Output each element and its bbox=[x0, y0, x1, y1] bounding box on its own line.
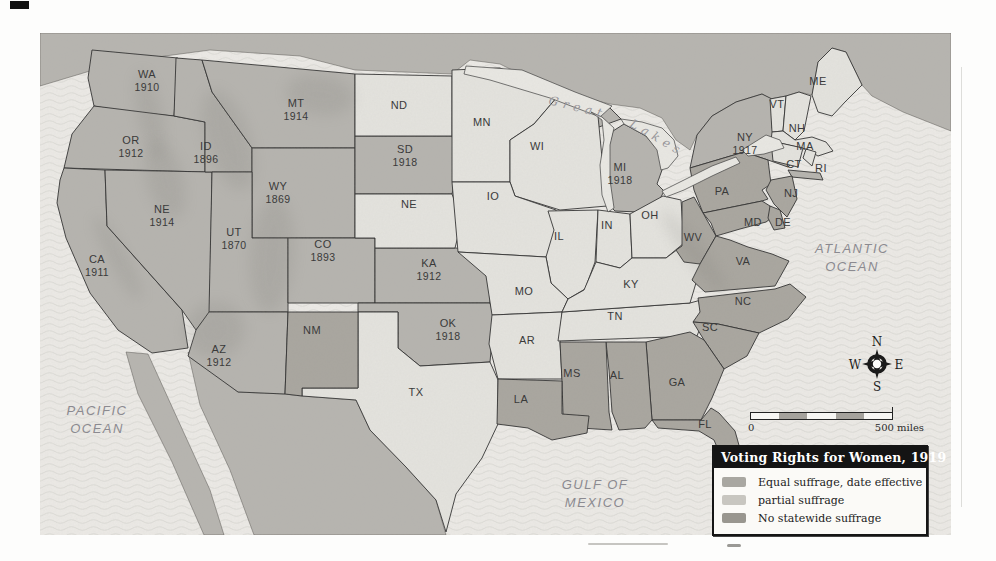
legend-item-none: No statewide suffrage bbox=[714, 509, 926, 527]
state-label-IL: IL bbox=[554, 230, 564, 242]
scale-end-label: 500 miles bbox=[875, 422, 924, 433]
scale-segment bbox=[836, 413, 864, 419]
state-date-KA: 1912 bbox=[417, 270, 442, 282]
state-label-MD: MD bbox=[744, 216, 762, 228]
legend-item-label: No statewide suffrage bbox=[758, 512, 881, 525]
state-label-ID: ID bbox=[200, 140, 212, 152]
state-label-NH: NH bbox=[789, 122, 806, 134]
compass-s-label: S bbox=[873, 380, 881, 394]
state-label-SC: SC bbox=[702, 321, 718, 333]
scale-bar-tick bbox=[892, 407, 893, 419]
scale-segment bbox=[807, 413, 835, 419]
state-label-CO: CO bbox=[314, 238, 331, 250]
legend-item-label: partial suffrage bbox=[758, 494, 844, 507]
legend-swatch-none bbox=[722, 513, 746, 523]
state-label-LA: LA bbox=[514, 393, 529, 405]
state-label-RI: RI bbox=[815, 162, 827, 174]
state-date-AZ: 1912 bbox=[207, 356, 232, 368]
state-label-AL: AL bbox=[610, 369, 624, 381]
state-label-NM: NM bbox=[303, 324, 321, 336]
state-date-CO: 1893 bbox=[311, 251, 336, 263]
state-label-WI: WI bbox=[530, 140, 544, 152]
state-label-UT: UT bbox=[226, 226, 241, 238]
state-label-CT: CT bbox=[786, 158, 801, 170]
scale-bar-labels: 0 500 miles bbox=[750, 422, 893, 434]
map-legend: Voting Rights for Women, 1919 Equal suff… bbox=[712, 445, 928, 536]
state-label-NEB: NE bbox=[401, 198, 417, 210]
state-label-FL: FL bbox=[698, 418, 712, 430]
state-label-ND: ND bbox=[391, 99, 408, 111]
state-date-OR: 1912 bbox=[119, 147, 144, 159]
state-label-MS: MS bbox=[563, 367, 580, 379]
state-label-TN: TN bbox=[607, 310, 622, 322]
legend-swatch-equal bbox=[722, 477, 746, 487]
legend-items: Equal suffrage, date effectivepartial su… bbox=[714, 468, 926, 534]
state-label-KA: KA bbox=[421, 257, 437, 269]
state-date-CA: 1911 bbox=[85, 266, 109, 278]
state-label-GA: GA bbox=[669, 376, 686, 388]
state-label-WV: WV bbox=[684, 231, 703, 243]
state-label-OR: OR bbox=[122, 134, 139, 146]
legend-item-partial: partial suffrage bbox=[714, 491, 926, 509]
legend-item-label: Equal suffrage, date effective bbox=[758, 476, 922, 489]
state-date-MI: 1918 bbox=[608, 174, 633, 186]
compass-n-label: N bbox=[872, 335, 883, 349]
scale-segment bbox=[751, 413, 779, 419]
state-date-MT: 1914 bbox=[284, 110, 309, 122]
scale-segment bbox=[864, 413, 892, 419]
scale-bar-track bbox=[750, 412, 893, 420]
state-label-MO: MO bbox=[515, 285, 534, 297]
state-label-AR: AR bbox=[519, 334, 535, 346]
state-label-OK: OK bbox=[440, 317, 457, 329]
state-label-MI: MI bbox=[613, 161, 626, 173]
state-label-IN: IN bbox=[601, 219, 613, 231]
state-label-ME: ME bbox=[809, 75, 826, 87]
state-label-MA: MA bbox=[796, 140, 814, 152]
state-label-WA: WA bbox=[138, 68, 156, 80]
legend-title: Voting Rights for Women, 1919 bbox=[714, 447, 926, 468]
scanned-map-page: WA1910OR1912CA1911NE1914ID1896MT1914WY18… bbox=[0, 0, 996, 561]
state-date-NV: 1914 bbox=[150, 216, 175, 228]
state-date-OK: 1918 bbox=[436, 330, 461, 342]
state-label-SD: SD bbox=[397, 143, 413, 155]
legend-item-equal: Equal suffrage, date effective bbox=[714, 473, 926, 491]
state-label-VT: VT bbox=[770, 98, 785, 110]
state-label-PA: PA bbox=[715, 185, 730, 197]
state-label-DE: DE bbox=[775, 216, 791, 228]
state-label-VA: VA bbox=[736, 255, 751, 267]
state-label-OH: OH bbox=[641, 209, 658, 221]
state-date-NY: 1917 bbox=[733, 144, 758, 156]
state-label-MT: MT bbox=[288, 97, 305, 109]
state-label-NJ: NJ bbox=[784, 187, 798, 199]
compass-w-label: W bbox=[849, 358, 862, 372]
state-label-IO: IO bbox=[487, 190, 499, 202]
state-label-CA: CA bbox=[89, 253, 105, 265]
state-label-TX: TX bbox=[409, 386, 424, 398]
state-date-UT: 1870 bbox=[222, 239, 247, 251]
state-label-KY: KY bbox=[623, 278, 639, 290]
scale-bar: 0 500 miles bbox=[750, 412, 893, 434]
state-date-WY: 1869 bbox=[266, 193, 291, 205]
state-date-ID: 1896 bbox=[194, 153, 219, 165]
state-label-NC: NC bbox=[735, 295, 752, 307]
legend-swatch-partial bbox=[722, 495, 746, 505]
state-label-NY: NY bbox=[737, 131, 753, 143]
compass-e-label: E bbox=[895, 358, 904, 372]
state-label-AZ: AZ bbox=[212, 343, 227, 355]
state-label-MN: MN bbox=[473, 116, 491, 128]
state-label-NV: NE bbox=[154, 203, 170, 215]
state-date-SD: 1918 bbox=[393, 156, 418, 168]
state-date-WA: 1910 bbox=[135, 81, 160, 93]
state-label-WY: WY bbox=[269, 180, 288, 192]
compass-center bbox=[873, 360, 881, 368]
scale-start-label: 0 bbox=[748, 422, 754, 433]
scale-segment bbox=[779, 413, 807, 419]
compass-rose: N S W E bbox=[848, 335, 906, 393]
